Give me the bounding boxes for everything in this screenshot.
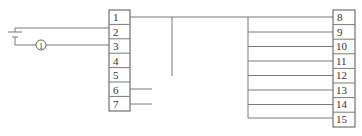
terminal-label: 14 [336,98,348,110]
terminal-label: 9 [337,26,343,38]
terminal-label: 15 [336,113,348,125]
terminal-label: 13 [336,84,348,96]
terminal-label: 12 [336,69,347,81]
battery-icon [8,28,109,45]
terminal-label: 2 [113,26,119,38]
left-terminal-block: 1 2 3 4 5 6 7 [109,10,130,111]
terminal-label: 10 [336,40,348,52]
terminal-label: 6 [113,84,119,96]
meter-symbol: 1 [36,40,109,51]
terminal-label: 5 [113,69,119,81]
terminal-label: 3 [113,40,119,52]
terminal-label: 4 [113,55,119,67]
right-terminal-block: 8 9 10 11 12 13 14 15 [333,10,355,127]
terminal-label: 7 [113,98,119,110]
terminal-label: 11 [336,55,347,67]
bus-lines [248,17,333,118]
terminal-label: 1 [113,11,119,23]
meter-label: 1 [39,42,43,51]
terminal-label: 8 [337,11,343,23]
wiring-diagram: 1 1 2 3 4 5 6 7 [0,0,362,136]
